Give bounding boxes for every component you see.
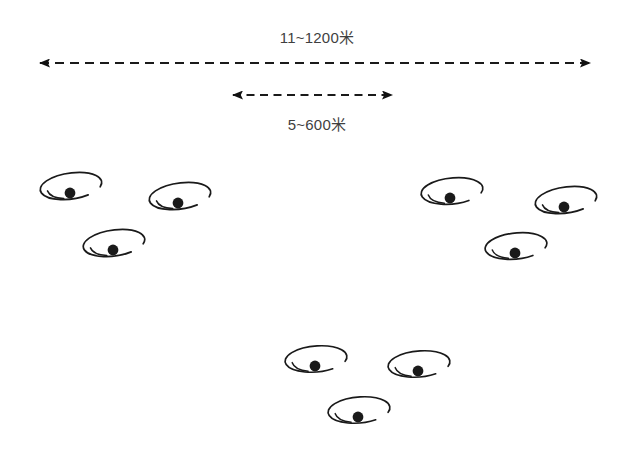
drone-body-dot	[108, 245, 119, 256]
drone-body-dot	[310, 361, 321, 372]
diagram-canvas	[0, 0, 634, 457]
outer-span-label: 11~1200米	[0, 26, 634, 47]
drone-body-dot	[559, 202, 570, 213]
drone-body-dot	[65, 188, 76, 199]
drone-layer	[38, 169, 598, 426]
left-drone-cluster	[38, 169, 212, 260]
drone-body-dot	[510, 248, 521, 259]
right-drone-cluster	[420, 175, 599, 262]
drone-body-dot	[445, 193, 456, 204]
drone-orbit-ring	[147, 179, 212, 213]
drone-icon	[533, 183, 598, 217]
drone-icon	[147, 179, 212, 213]
bottom-drone-cluster	[284, 343, 451, 425]
drone-body-dot	[353, 412, 364, 423]
inner-span-label: 5~600米	[0, 113, 634, 134]
drone-formation-diagram: 11~1200米 5~600米	[0, 0, 634, 457]
drone-body-dot	[173, 198, 184, 209]
drone-orbit-ring	[533, 183, 598, 217]
drone-body-dot	[413, 366, 424, 377]
